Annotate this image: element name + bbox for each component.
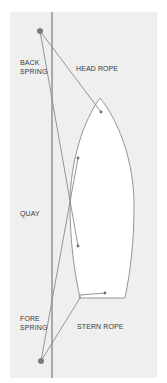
fore-spring-label-line1: FORE [20, 314, 47, 323]
aft-bollard [38, 358, 44, 364]
stern-rope-cleat [104, 292, 107, 295]
quay-label: QUAY [20, 209, 40, 218]
back-spring-label-line2: SPRING [20, 67, 47, 76]
fore-bollard [37, 28, 43, 34]
fore-spring-label-line2: SPRING [20, 323, 47, 332]
fore-spring-cleat [77, 157, 80, 160]
back-spring-label: BACK SPRING [20, 58, 47, 76]
head-rope-label: HEAD ROPE [76, 64, 118, 73]
back-spring-cleat [77, 245, 80, 248]
stern-rope-label: STERN ROPE [77, 322, 124, 331]
boat-hull [70, 98, 134, 298]
back-spring-label-line1: BACK [20, 58, 47, 67]
fore-spring-label: FORE SPRING [20, 314, 47, 332]
head-rope-cleat [100, 111, 103, 114]
